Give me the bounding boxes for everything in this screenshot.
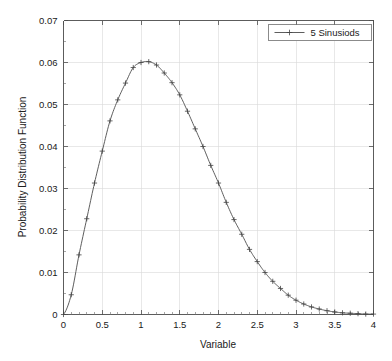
- data-point-marker: [69, 292, 74, 297]
- data-point-marker: [355, 311, 360, 316]
- y-tick-label: 0.03: [39, 183, 58, 194]
- data-point-marker: [208, 163, 213, 168]
- y-tick-label: 0.06: [39, 57, 58, 68]
- chart-legend[interactable]: 5 Sinusiods: [269, 25, 372, 41]
- figure-canvas: 00.511.522.533.5400.010.020.030.040.050.…: [0, 0, 392, 361]
- gridlines: [64, 21, 374, 315]
- x-tick-label: 0.5: [96, 319, 109, 330]
- data-point-marker: [324, 308, 329, 313]
- data-point-marker: [363, 311, 368, 316]
- data-point-marker: [123, 80, 128, 85]
- data-point-marker: [61, 312, 66, 317]
- data-point-marker: [107, 118, 112, 123]
- data-point-marker: [239, 232, 244, 237]
- x-tick-label: 0: [61, 319, 66, 330]
- data-point-marker: [193, 126, 198, 131]
- data-point-marker: [255, 259, 260, 264]
- x-tick-label: 1.5: [173, 319, 186, 330]
- x-axis-title: Variable: [200, 339, 236, 350]
- x-tick-label: 2: [216, 319, 221, 330]
- x-tick-label: 2.5: [251, 319, 264, 330]
- data-point-marker: [146, 59, 151, 64]
- data-point-marker: [348, 311, 353, 316]
- data-point-marker: [216, 180, 221, 185]
- data-point-marker: [293, 298, 298, 303]
- data-point-marker: [76, 252, 81, 257]
- data-point-marker: [200, 144, 205, 149]
- data-point-marker: [332, 309, 337, 314]
- data-point-marker: [247, 247, 252, 252]
- y-tick-label: 0.07: [39, 15, 58, 26]
- data-point-marker: [115, 97, 120, 102]
- y-axis-title: Probability Distribution Function: [17, 97, 28, 238]
- y-tick-label: 0: [52, 309, 57, 320]
- axis-tick-labels: 00.511.522.533.5400.010.020.030.040.050.…: [39, 15, 376, 330]
- x-tick-label: 3: [293, 319, 298, 330]
- data-point-marker: [84, 216, 89, 221]
- data-point-marker: [231, 217, 236, 222]
- x-tick-label: 4: [371, 319, 376, 330]
- x-tick-label: 1: [138, 319, 143, 330]
- data-point-marker: [301, 301, 306, 306]
- x-tick-label: 3.5: [328, 319, 341, 330]
- data-point-marker: [317, 306, 322, 311]
- legend-entry-label[interactable]: 5 Sinusiods: [311, 27, 360, 38]
- data-point-marker: [138, 60, 143, 65]
- data-point-marker: [100, 149, 105, 154]
- y-tick-label: 0.02: [39, 225, 58, 236]
- data-point-marker: [371, 311, 376, 316]
- data-point-marker: [92, 180, 97, 185]
- chart-plot: 00.511.522.533.5400.010.020.030.040.050.…: [0, 0, 392, 361]
- y-tick-label: 0.01: [39, 267, 58, 278]
- y-tick-label: 0.05: [39, 99, 58, 110]
- data-point-marker: [309, 304, 314, 309]
- data-point-marker: [185, 109, 190, 114]
- y-tick-label: 0.04: [39, 141, 58, 152]
- data-point-marker: [177, 92, 182, 97]
- data-point-marker: [224, 200, 229, 205]
